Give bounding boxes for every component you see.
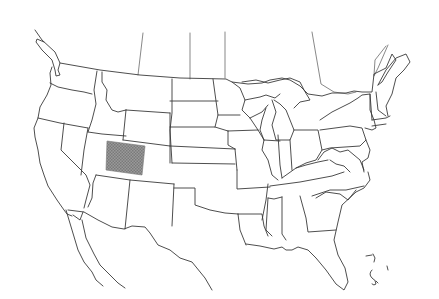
map-svg bbox=[0, 0, 439, 299]
colorado-highlight bbox=[106, 141, 145, 175]
us-canada-border bbox=[60, 54, 396, 96]
canada-lines bbox=[138, 32, 388, 94]
bahamas-islands bbox=[366, 254, 388, 285]
state-borders bbox=[38, 54, 410, 290]
us-map: United States outline map Colorado bbox=[0, 0, 439, 299]
